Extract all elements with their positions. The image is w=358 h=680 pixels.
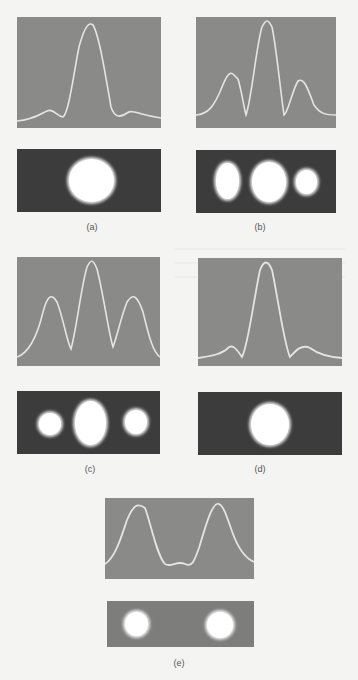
light-spot [39, 413, 61, 435]
panel-b-spot-image [196, 150, 336, 213]
light-spot [216, 163, 239, 199]
panel-b-profile-plot [196, 17, 336, 128]
panel-a-spot-image [17, 149, 161, 212]
panel-a-profile-plot [17, 17, 161, 128]
panel-d-label: (d) [245, 464, 275, 474]
panel-e-label: (e) [164, 658, 194, 668]
light-spot [251, 404, 289, 445]
light-spot [125, 612, 148, 636]
panel-c-spot-image [17, 391, 160, 454]
light-spot [125, 410, 147, 434]
bleed-through-line [175, 248, 345, 250]
panel-d-profile-plot [198, 258, 342, 366]
panel-c-profile-plot [17, 257, 160, 366]
panel-e-spot-image [107, 601, 254, 647]
panel-c-label: (c) [75, 464, 105, 474]
light-spot [75, 401, 106, 445]
light-spot [252, 162, 286, 202]
panel-b-label: (b) [245, 222, 275, 232]
panel-e-profile-plot [105, 498, 254, 579]
panel-a-label: (a) [77, 222, 107, 232]
light-spot [69, 159, 114, 202]
light-spot [207, 612, 233, 638]
panel-d-spot-image [198, 392, 342, 455]
light-spot [296, 170, 317, 194]
